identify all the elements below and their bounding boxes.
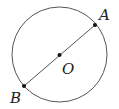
label-a: A — [97, 6, 110, 24]
label-b: B — [9, 89, 21, 107]
circle-diagram: A B O — [0, 0, 119, 109]
center-o-dot — [58, 53, 62, 57]
point-b-dot — [22, 84, 26, 88]
label-o: O — [62, 60, 74, 78]
point-a-dot — [93, 23, 97, 27]
